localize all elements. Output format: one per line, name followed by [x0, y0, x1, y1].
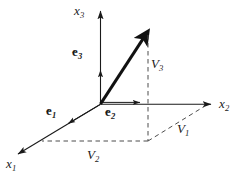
vector-diagram-canvas — [0, 0, 241, 177]
unit-vector-label-e3-sub: 3 — [78, 51, 82, 61]
component-label-v3-sub: 3 — [159, 63, 163, 73]
axis-label-x2: x2 — [219, 97, 229, 110]
component-label-v3-base: V — [151, 56, 159, 71]
component-label-v2: V2 — [87, 148, 99, 161]
component-label-v1-base: V — [177, 121, 185, 136]
unit-vector-label-e1: ‸ e1 — [46, 104, 56, 117]
axis-label-x3: x3 — [74, 4, 84, 17]
component-label-v2-sub: 2 — [95, 154, 99, 164]
axis-label-x3-base: x — [74, 3, 80, 18]
axis-label-x1: x1 — [6, 157, 16, 170]
unit-vector-label-e2-sub: 2 — [111, 111, 115, 121]
axis-label-x1-base: x — [6, 156, 12, 171]
hat-accent-e1: ‸ — [46, 99, 50, 111]
axis-label-x2-base: x — [219, 96, 225, 111]
axis-label-x2-sub: 2 — [225, 103, 229, 113]
vector-decomposition-figure: x3 x2 x1 ‸ e1 ‸ e2 ‸ e3 V1 V2 V3 — [0, 0, 241, 177]
component-label-v3: V3 — [151, 57, 163, 70]
hat-accent-e2: ‸ — [105, 100, 109, 112]
axis-label-x1-sub: 1 — [12, 163, 16, 173]
unit-vector-label-e1-sub: 1 — [52, 110, 56, 120]
hat-accent-e3: ‸ — [72, 40, 76, 52]
unit-vector-label-e3: ‸ e3 — [72, 45, 82, 58]
unit-vector-e1-arrow — [68, 104, 101, 123]
component-label-v2-base: V — [87, 147, 95, 162]
axis-label-x3-sub: 3 — [80, 10, 84, 20]
component-label-v1-sub: 1 — [185, 128, 189, 138]
component-label-v1: V1 — [177, 122, 189, 135]
unit-vector-label-e2: ‸ e2 — [105, 105, 115, 118]
main-vector-arrow — [101, 34, 147, 105]
